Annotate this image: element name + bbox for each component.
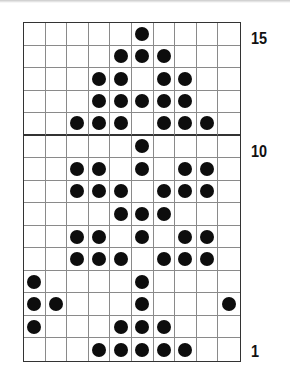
grid-cell-r9-c10	[218, 158, 240, 181]
grid-cell-r13-c2	[46, 68, 68, 91]
grid-cell-r14-c4	[89, 46, 111, 69]
grid-cell-r5-c6	[132, 248, 154, 271]
grid-cell-r11-c9	[197, 113, 219, 136]
grid-cell-r9-c2	[46, 158, 68, 181]
stitch-dot-icon	[114, 320, 128, 334]
stitch-dot-icon	[135, 49, 149, 63]
grid-cell-r5-c8	[175, 248, 197, 271]
grid-cell-r12-c7	[154, 91, 176, 114]
grid-cell-r6-c7	[154, 226, 176, 249]
grid-cell-r4-c3	[67, 271, 89, 294]
stitch-dot-icon	[200, 252, 214, 266]
stitch-dot-icon	[70, 230, 84, 244]
grid-cell-r4-c10	[218, 271, 240, 294]
stitch-dot-icon	[178, 184, 192, 198]
stitch-dot-icon	[157, 320, 171, 334]
top-border	[0, 0, 290, 3]
grid-cell-r15-c1	[24, 23, 46, 46]
grid-cell-r14-c1	[24, 46, 46, 69]
grid-cell-r14-c8	[175, 46, 197, 69]
grid-cell-r14-c10	[218, 46, 240, 69]
grid-cell-r13-c4	[89, 68, 111, 91]
grid-cell-r1-c8	[175, 338, 197, 361]
grid-cell-r9-c3	[67, 158, 89, 181]
grid-cell-r5-c10	[218, 248, 240, 271]
grid-cell-r12-c3	[67, 91, 89, 114]
stitch-dot-icon	[92, 184, 106, 198]
grid-cell-r5-c2	[46, 248, 68, 271]
grid-cell-r13-c10	[218, 68, 240, 91]
grid-cell-r10-c1	[24, 136, 46, 159]
grid-cell-r1-c2	[46, 338, 68, 361]
grid-cell-r9-c6	[132, 158, 154, 181]
grid-cell-r6-c5	[110, 226, 132, 249]
grid-cell-r14-c7	[154, 46, 176, 69]
grid-cell-r15-c10	[218, 23, 240, 46]
grid-cell-r2-c4	[89, 316, 111, 339]
grid-cell-r2-c2	[46, 316, 68, 339]
grid-cell-r6-c8	[175, 226, 197, 249]
grid-cell-r9-c9	[197, 158, 219, 181]
grid-cell-r10-c10	[218, 136, 240, 159]
grid-cell-r9-c5	[110, 158, 132, 181]
grid-cell-r2-c5	[110, 316, 132, 339]
grid-cell-r11-c2	[46, 113, 68, 136]
stitch-dot-icon	[92, 72, 106, 86]
grid-cell-r3-c2	[46, 293, 68, 316]
row-label-10: 10	[251, 142, 267, 162]
stitch-dot-icon	[157, 207, 171, 221]
grid-cell-r2-c3	[67, 316, 89, 339]
stitch-dot-icon	[70, 162, 84, 176]
grid-cell-r14-c2	[46, 46, 68, 69]
stitch-dot-icon	[92, 94, 106, 108]
grid-cell-r15-c6	[132, 23, 154, 46]
grid-cell-r11-c1	[24, 113, 46, 136]
grid-cell-r7-c9	[197, 203, 219, 226]
grid-cell-r10-c4	[89, 136, 111, 159]
stitch-dot-icon	[157, 72, 171, 86]
stitch-dot-icon	[135, 207, 149, 221]
stitch-dot-icon	[178, 343, 192, 357]
grid-cell-r3-c3	[67, 293, 89, 316]
stitch-dot-icon	[178, 94, 192, 108]
grid-cell-r11-c5	[110, 113, 132, 136]
grid-cell-r8-c3	[67, 181, 89, 204]
stitch-dot-icon	[157, 343, 171, 357]
grid-cell-r2-c10	[218, 316, 240, 339]
stitch-dot-icon	[178, 116, 192, 130]
grid-cell-r14-c6	[132, 46, 154, 69]
grid-cell-r7-c8	[175, 203, 197, 226]
grid-cell-r10-c7	[154, 136, 176, 159]
grid-cell-r10-c6	[132, 136, 154, 159]
grid-cell-r13-c7	[154, 68, 176, 91]
stitch-dot-icon	[135, 162, 149, 176]
stitch-dot-icon	[92, 230, 106, 244]
grid-cell-r5-c1	[24, 248, 46, 271]
stitch-dot-icon	[135, 320, 149, 334]
stitch-dot-icon	[27, 320, 41, 334]
grid-cell-r3-c6	[132, 293, 154, 316]
grid-cell-r6-c2	[46, 226, 68, 249]
stitch-dot-icon	[92, 252, 106, 266]
grid-cell-r4-c6	[132, 271, 154, 294]
stitch-dot-icon	[200, 184, 214, 198]
grid-cell-r15-c2	[46, 23, 68, 46]
grid-cell-r12-c2	[46, 91, 68, 114]
stitch-dot-icon	[135, 230, 149, 244]
grid-cell-r2-c8	[175, 316, 197, 339]
stitch-dot-icon	[135, 139, 149, 153]
grid-cell-r4-c1	[24, 271, 46, 294]
stitch-dot-icon	[114, 343, 128, 357]
knitting-chart-grid	[23, 22, 241, 362]
grid-cell-r7-c10	[218, 203, 240, 226]
grid-cell-r13-c9	[197, 68, 219, 91]
grid-cell-r6-c10	[218, 226, 240, 249]
stitch-dot-icon	[135, 275, 149, 289]
stitch-dot-icon	[135, 27, 149, 41]
grid-cell-r3-c8	[175, 293, 197, 316]
grid-cell-r10-c5	[110, 136, 132, 159]
grid-cell-r11-c3	[67, 113, 89, 136]
grid-cell-r5-c3	[67, 248, 89, 271]
grid-cell-r1-c1	[24, 338, 46, 361]
grid-cell-r8-c2	[46, 181, 68, 204]
